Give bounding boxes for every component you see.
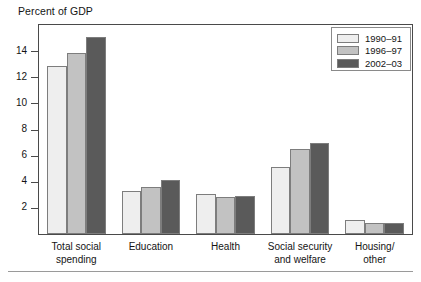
chart-bar: [345, 220, 365, 234]
legend-item-label: 2002–03: [365, 58, 402, 69]
x-axis-category-label-line: spending: [16, 254, 136, 267]
chart-bar: [161, 180, 181, 234]
chart-bar: [235, 196, 255, 234]
legend-item: 1996–97: [337, 45, 405, 58]
x-axis-category-label: Housing/other: [315, 241, 421, 266]
chart-bar: [122, 191, 142, 234]
chart-bar: [47, 66, 67, 235]
chart-bar: [67, 53, 87, 234]
y-axis-tick: [31, 208, 38, 209]
y-axis-tick-label: 10: [0, 97, 27, 108]
chart-bar: [384, 223, 404, 234]
y-axis-tick: [31, 156, 38, 157]
y-axis-tick: [31, 51, 38, 52]
chart-bar: [290, 149, 310, 234]
y-axis-tick-label: 14: [0, 45, 27, 56]
chart-axis-title: Percent of GDP: [18, 5, 93, 17]
chart-figure: Percent of GDP 2468101214 Total socialsp…: [0, 0, 421, 282]
y-axis-tick: [31, 103, 38, 104]
y-axis-tick-label: 8: [0, 123, 27, 134]
chart-bar: [271, 167, 291, 234]
legend-swatch-icon: [337, 59, 359, 68]
legend-item: 2002–03: [337, 57, 405, 70]
chart-bar: [365, 223, 385, 234]
legend-item: 1990–91: [337, 32, 405, 45]
y-axis-tick-label: 6: [0, 149, 27, 160]
legend-item-label: 1990–91: [365, 33, 402, 44]
chart-bar: [141, 187, 161, 234]
x-axis-category-label-line: Housing/: [315, 241, 421, 254]
chart-legend: 1990–91 1996–97 2002–03: [331, 27, 411, 71]
y-axis-tick: [31, 77, 38, 78]
y-axis-tick-label: 4: [0, 175, 27, 186]
y-axis-tick-label: 12: [0, 71, 27, 82]
legend-item-label: 1996–97: [365, 45, 402, 56]
legend-swatch-icon: [337, 46, 359, 55]
chart-bar: [216, 197, 236, 234]
chart-bar: [310, 143, 330, 234]
legend-swatch-icon: [337, 34, 359, 43]
chart-bar: [86, 37, 106, 234]
y-axis-tick-label: 2: [0, 201, 27, 212]
footer-divider: [8, 271, 413, 272]
y-axis-tick: [31, 182, 38, 183]
x-axis-category-label-line: other: [315, 254, 421, 267]
chart-bar: [196, 194, 216, 234]
y-axis-tick: [31, 130, 38, 131]
